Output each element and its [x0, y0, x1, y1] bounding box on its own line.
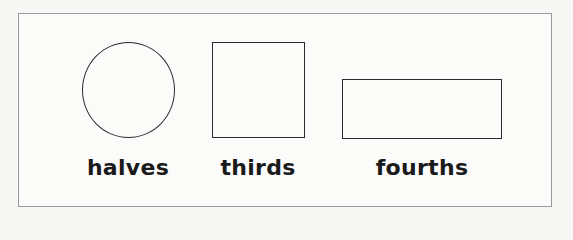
label-thirds: thirds [178, 155, 338, 180]
circle-shape [82, 42, 175, 138]
label-fourths: fourths [342, 155, 502, 180]
rectangle-shape [342, 79, 502, 139]
square-shape [212, 42, 305, 138]
